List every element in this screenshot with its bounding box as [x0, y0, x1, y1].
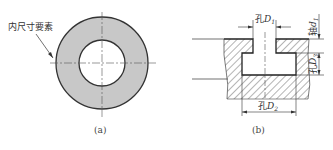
caption-a: (a) — [94, 125, 106, 135]
arrowhead-icon — [248, 26, 253, 29]
hole-d3-label: 孔D3 — [308, 54, 319, 74]
d2-label: 孔D2 — [258, 101, 278, 112]
arrowhead-icon — [291, 111, 296, 114]
figure-canvas: 内尺寸要素 (a) 孔D1 轴d1 孔D3 — [0, 0, 333, 150]
hatched-body — [224, 39, 310, 99]
figure-b: 孔D1 轴d1 孔D3 孔D2 (b) — [192, 14, 324, 135]
caption-b: (b) — [252, 125, 265, 135]
inner-feature-label: 内尺寸要素 — [8, 21, 53, 32]
figure-a: 内尺寸要素 (a) — [8, 12, 156, 135]
arrowhead-icon — [242, 111, 247, 114]
arrowhead-icon — [48, 52, 53, 58]
arrowhead-icon — [276, 26, 281, 29]
d1-label: 孔D1 — [255, 14, 275, 25]
shaft-d1-label: 轴d1 — [307, 17, 319, 36]
